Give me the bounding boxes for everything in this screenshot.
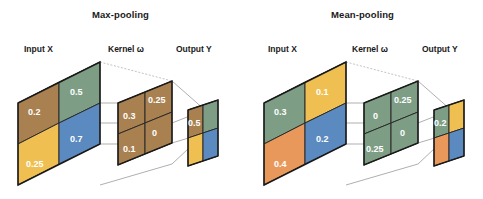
kernel-cell-value-1-0: 0.25 (366, 144, 384, 154)
kernel-cell-value-0-0: 0 (373, 111, 378, 121)
mean-pooling-diagram: 0.3 0.1 0.4 0.2 0 0.25 0.25 0 (242, 0, 483, 199)
input-cell-value-0-1: 0.1 (316, 87, 329, 97)
input-cell-value-1-1: 0.2 (316, 134, 329, 144)
kernel-cell-value-1-1: 0 (152, 128, 157, 138)
output-grid: 0.2 (434, 100, 464, 166)
output-grid: 0.5 (188, 100, 218, 166)
output-cell-value-0-0: 0.5 (188, 118, 201, 128)
input-cell-value-0-1: 0.5 (70, 87, 83, 97)
connector-top (100, 62, 172, 81)
kernel-cell-value-0-1: 0.25 (148, 95, 166, 105)
input-cell-value-1-0: 0.25 (26, 159, 44, 169)
kernel-grid: 0.3 0.25 0.1 0 (118, 81, 172, 165)
input-cell-value-0-0: 0.3 (274, 107, 287, 117)
connector-bottom (346, 164, 418, 185)
kernel-cell-value-1-1: 0 (400, 128, 405, 138)
input-cell-value-0-0: 0.2 (28, 107, 41, 117)
pooling-figure: Max-pooling Input X Kernel ω Output Y (0, 0, 483, 199)
max-pooling-diagram: 0.2 0.5 0.25 0.7 0.3 0.25 0.1 0 (0, 0, 241, 199)
input-grid: 0.2 0.5 0.25 0.7 (18, 62, 100, 185)
input-cell-value-1-1: 0.7 (70, 134, 83, 144)
panel-max-pooling: Max-pooling Input X Kernel ω Output Y (0, 0, 241, 199)
kernel-grid: 0 0.25 0.25 0 (364, 81, 418, 165)
connector-top (346, 62, 418, 81)
input-grid: 0.3 0.1 0.4 0.2 (264, 62, 346, 185)
kernel-cell-value-0-0: 0.3 (123, 111, 136, 121)
input-cell-value-1-0: 0.4 (274, 159, 287, 169)
output-cell-value-0-0: 0.2 (434, 118, 447, 128)
connector-bottom (100, 164, 172, 185)
panel-mean-pooling: Mean-pooling Input X Kernel ω Output Y (242, 0, 483, 199)
kernel-cell-value-1-0: 0.1 (123, 144, 136, 154)
kernel-cell-value-0-1: 0.25 (394, 95, 412, 105)
